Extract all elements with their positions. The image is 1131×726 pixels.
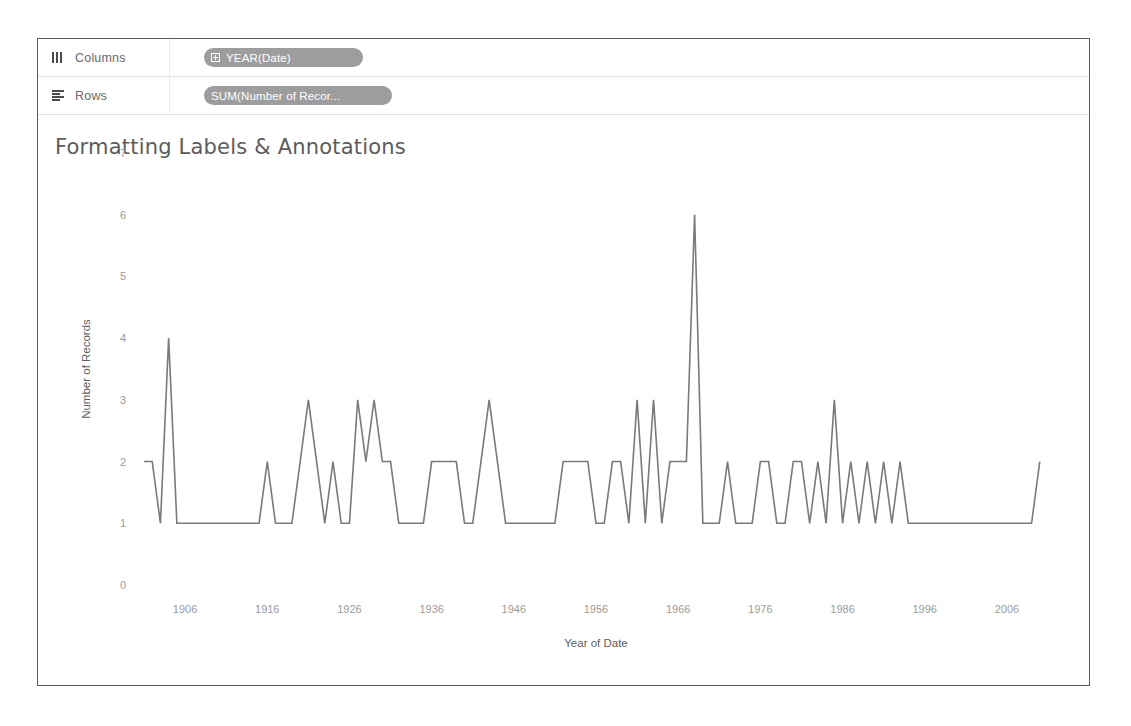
plot-container: 01234567 Number of Records 1906191619261… [38, 115, 1089, 685]
x-tick-label: 1926 [337, 603, 361, 615]
y-tick-label: 5 [120, 270, 126, 282]
x-tick-label: 1936 [419, 603, 443, 615]
y-tick-label: 4 [120, 332, 126, 344]
x-tick-label: 1946 [502, 603, 526, 615]
pill-sum-number-of-records[interactable]: SUM(Number of Recor... [204, 86, 392, 105]
x-tick-label: 1966 [666, 603, 690, 615]
columns-shelf-label: Columns [75, 51, 126, 65]
tableau-worksheet-screenshot: Columns YEAR(Date) Rows SUM(Number of Re… [0, 0, 1131, 726]
line-chart: 01234567 Number of Records 1906191619261… [38, 115, 1089, 685]
x-tick-label: 1986 [830, 603, 854, 615]
x-tick-label: 1956 [584, 603, 608, 615]
columns-shelf-label-zone: Columns [38, 39, 170, 76]
x-axis-title: Year of Date [564, 637, 628, 649]
y-axis-title: Number of Records [80, 319, 92, 419]
y-tick-label: 0 [120, 579, 126, 591]
y-tick-label: 6 [120, 209, 126, 221]
x-tick-label: 2006 [995, 603, 1019, 615]
y-tick-label: 3 [120, 394, 126, 406]
rows-shelf-label: Rows [75, 89, 107, 103]
columns-icon [51, 51, 66, 64]
x-tick-label: 1976 [748, 603, 772, 615]
pill-sum-number-of-records-label: SUM(Number of Recor... [211, 90, 340, 102]
y-tick-label: 7 [120, 147, 126, 159]
x-tick-label: 1996 [912, 603, 936, 615]
x-tick-label: 1906 [173, 603, 197, 615]
expand-plus-icon[interactable] [211, 53, 220, 62]
pill-year-date[interactable]: YEAR(Date) [204, 48, 363, 67]
rows-shelf[interactable]: Rows SUM(Number of Recor... [38, 77, 1089, 115]
x-axis-ticks: 1906191619261936194619561966197619861996… [173, 603, 1019, 615]
worksheet-frame: Columns YEAR(Date) Rows SUM(Number of Re… [37, 38, 1090, 686]
view-area: Formatting Labels & Annotations 01234567… [38, 115, 1089, 685]
x-tick-label: 1916 [255, 603, 279, 615]
y-tick-label: 2 [120, 456, 126, 468]
columns-shelf[interactable]: Columns YEAR(Date) [38, 39, 1089, 77]
y-axis-ticks: 01234567 [120, 147, 126, 591]
pill-year-date-label: YEAR(Date) [226, 52, 291, 64]
rows-shelf-label-zone: Rows [38, 77, 170, 114]
y-tick-label: 1 [120, 517, 126, 529]
rows-icon [51, 89, 66, 102]
series-line-sum-number-of-records [144, 215, 1040, 524]
